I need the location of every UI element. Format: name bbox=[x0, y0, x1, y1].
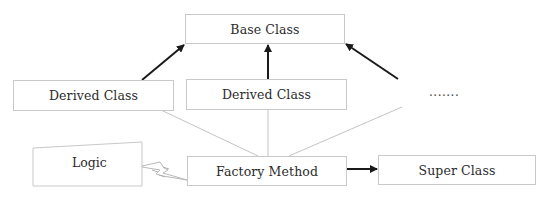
arrow-more-base bbox=[346, 44, 398, 79]
factory-method-label: Factory Method bbox=[216, 164, 318, 179]
base-class-label: Base Class bbox=[230, 22, 299, 37]
arrow-derived1-base bbox=[142, 45, 184, 80]
derived-class-node-1: Derived Class bbox=[13, 80, 174, 111]
derived-class-label-2: Derived Class bbox=[222, 87, 311, 102]
logic-label: Logic bbox=[72, 155, 107, 170]
lightning-hatch-2 bbox=[152, 170, 158, 172]
super-class-label: Super Class bbox=[419, 163, 496, 178]
connector-more-factory bbox=[289, 107, 402, 156]
base-class-node: Base Class bbox=[185, 14, 345, 44]
derived-class-label-1: Derived Class bbox=[49, 88, 138, 103]
derived-class-node-2: Derived Class bbox=[186, 79, 347, 110]
super-class-node: Super Class bbox=[378, 155, 536, 185]
factory-method-node: Factory Method bbox=[187, 156, 347, 186]
connector-derived1-factory bbox=[161, 110, 258, 156]
more-derived-classes-label: ....... bbox=[429, 85, 459, 99]
factory-method-diagram: Base Class Derived Class Derived Class .… bbox=[0, 0, 546, 197]
